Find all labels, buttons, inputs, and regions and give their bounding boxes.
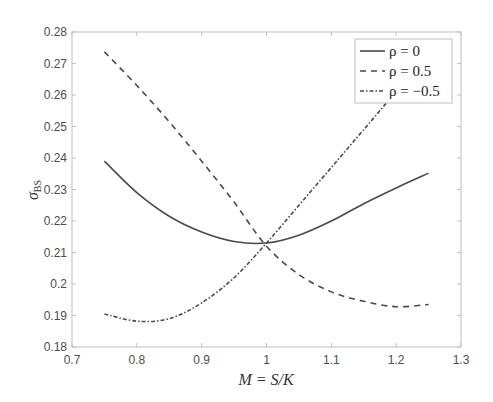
x-tick-label: 0.9 <box>193 353 210 367</box>
y-tick-label: 0.26 <box>44 88 68 102</box>
x-tick-label: 0.8 <box>128 353 145 367</box>
y-tick-label: 0.28 <box>44 25 68 39</box>
y-axis-label: σBS <box>24 180 43 200</box>
legend: ρ = 0 ρ = 0.5 ρ = −0.5 <box>355 39 452 103</box>
y-tick-label: 0.18 <box>44 340 68 354</box>
legend-label-2: ρ = −0.5 <box>389 83 440 99</box>
y-tick-label: 0.22 <box>44 214 68 228</box>
x-tick-label: 0.7 <box>64 353 81 367</box>
x-axis-label: M = S/K <box>237 371 295 388</box>
legend-label-0: ρ = 0 <box>389 43 420 59</box>
x-tick-label: 1.3 <box>453 353 470 367</box>
y-tick-label: 0.19 <box>44 309 68 323</box>
y-tick-label: 0.23 <box>44 183 68 197</box>
x-tick-label: 1 <box>263 353 270 367</box>
y-tick-label: 0.21 <box>44 246 68 260</box>
y-tick-label: 0.24 <box>44 151 68 165</box>
y-tick-label: 0.2 <box>50 277 67 291</box>
legend-label-1: ρ = 0.5 <box>389 63 431 79</box>
y-tick-label: 0.25 <box>44 120 68 134</box>
x-tick-label: 1.1 <box>323 353 340 367</box>
y-tick-label: 0.27 <box>44 57 68 71</box>
chart: 0.70.80.911.11.21.30.180.190.20.210.220.… <box>0 0 493 402</box>
x-tick-label: 1.2 <box>388 353 405 367</box>
svg-text:σBS: σBS <box>24 180 43 200</box>
y-axis-label-sub: BS <box>32 180 43 192</box>
